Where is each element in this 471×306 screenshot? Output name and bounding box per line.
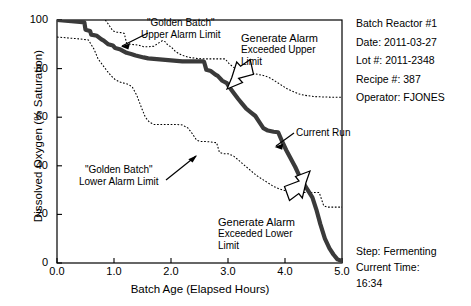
x-axis-tick-label: 1.0	[97, 266, 131, 277]
generate-alarm-lower-annotation: Generate Alarm Exceeded Lower Limit	[218, 216, 295, 252]
x-axis-tick-label: 5.0	[325, 266, 359, 277]
batch-date-label: Date: 2011-03-27	[356, 33, 445, 52]
annotation-line-1: Generate Alarm	[241, 32, 318, 44]
x-axis-tick-label: 4.0	[268, 266, 302, 277]
annotation-line-1: "Golden Batch"	[141, 17, 220, 29]
x-axis-title: Batch Age (Elapsed Hours)	[57, 283, 343, 295]
y-axis-tick-label: 80	[18, 63, 48, 74]
annotation-line-2: Exceeded Lower	[218, 228, 295, 240]
y-axis-tick-label: 100	[18, 14, 48, 25]
y-axis-tick-label: 40	[18, 160, 48, 171]
current-time-value: 16:34	[356, 275, 437, 291]
batch-operator-label: Operator: FJONES	[356, 88, 445, 107]
y-axis-tick-label: 20	[18, 208, 48, 219]
annotation-line-3: Limit	[218, 240, 295, 252]
current-run-annotation: Current Run	[296, 127, 350, 139]
annotation-line-2: Upper Alarm Limit	[141, 29, 220, 41]
batch-info-panel: Batch Reactor #1 Date: 2011-03-27 Lot #:…	[356, 14, 445, 107]
annotation-line-1: Current Run	[296, 127, 350, 139]
batch-reactor-label: Batch Reactor #1	[356, 14, 445, 33]
annotation-line-2: Lower Alarm Limit	[79, 176, 158, 188]
x-axis-tick-label: 2.0	[154, 266, 188, 277]
batch-status-panel: Step: Fermenting Current Time: 16:34	[356, 243, 437, 291]
batch-step-label: Step: Fermenting	[356, 243, 437, 259]
x-axis-tick-label: 0.0	[40, 266, 74, 277]
batch-lot-label: Lot #: 2011-2348	[356, 51, 445, 70]
chart-page: Dissolved Oxygen (% Saturation) Batch Ag…	[0, 0, 471, 306]
annotation-line-3: Limit	[241, 56, 318, 68]
x-axis-tick-label: 3.0	[211, 266, 245, 277]
y-axis-tick-label: 60	[18, 111, 48, 122]
annotation-line-1: "Golden Batch"	[79, 164, 158, 176]
lower-alarm-limit-annotation: "Golden Batch" Lower Alarm Limit	[79, 164, 158, 188]
annotation-line-1: Generate Alarm	[218, 216, 295, 228]
upper-alarm-limit-annotation: "Golden Batch" Upper Alarm Limit	[141, 17, 220, 41]
batch-recipe-label: Recipe #: 387	[356, 70, 445, 89]
annotation-line-2: Exceeded Upper	[241, 44, 318, 56]
generate-alarm-upper-annotation: Generate Alarm Exceeded Upper Limit	[241, 32, 318, 68]
current-time-label: Current Time:	[356, 259, 437, 275]
